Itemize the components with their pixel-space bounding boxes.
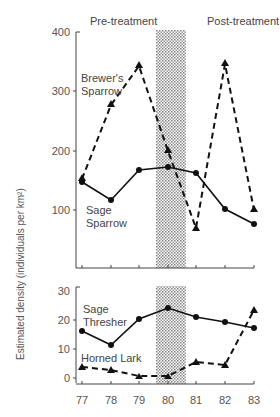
xtick-78: 78: [105, 394, 117, 406]
pre-treatment-label: Pre-treatment: [90, 15, 157, 27]
top-ytick-100: 100: [52, 204, 70, 216]
sage-thresher-label-1: Sage: [83, 303, 109, 315]
treatment-band-top: [156, 30, 186, 268]
chart-canvas: 400 300 200 100 Pre-treatment Post-treat…: [0, 0, 280, 417]
bottom-ytick-30: 30: [58, 285, 70, 297]
top-ytick-400: 400: [52, 26, 70, 38]
bottom-ytick-0: 0: [64, 372, 70, 384]
top-ytick-200: 200: [52, 145, 70, 157]
sage-thresher-label-2: Thresher: [83, 316, 127, 328]
brewers-sparrow-label-1: Brewer's: [81, 72, 124, 84]
horned-lark-label: Horned Lark: [81, 352, 142, 364]
bottom-ytick-20: 20: [58, 314, 70, 326]
xtick-77: 77: [76, 394, 88, 406]
xtick-82: 82: [219, 394, 231, 406]
top-ytick-300: 300: [52, 85, 70, 97]
brewers-sparrow-label-2: Sparrow: [81, 85, 122, 97]
xtick-83: 83: [248, 394, 260, 406]
post-treatment-label: Post-treatment: [207, 15, 279, 27]
y-axis-label: Estimated density (individuals per km²): [15, 188, 26, 360]
sage-sparrow-label-2: Sparrow: [86, 217, 127, 229]
top-y-axis: [73, 32, 80, 268]
sage-sparrow-label-1: Sage: [86, 204, 112, 216]
xtick-81: 81: [190, 394, 202, 406]
bottom-ytick-10: 10: [58, 343, 70, 355]
xtick-80: 80: [162, 394, 174, 406]
xtick-79: 79: [133, 394, 145, 406]
